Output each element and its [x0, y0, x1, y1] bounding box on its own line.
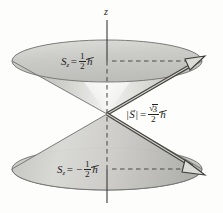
spin-cone-figure: z Sz=12h Sz=−12h |→S|=√32h: [0, 0, 223, 213]
figure-canvas: [0, 0, 223, 213]
